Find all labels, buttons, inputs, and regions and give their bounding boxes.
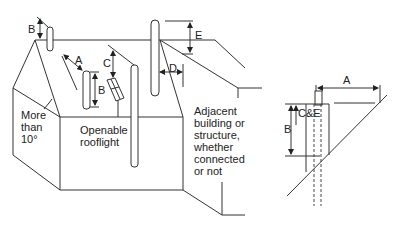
dim-label-b-top: B (28, 24, 35, 35)
flue-roof-slope (83, 71, 99, 109)
label-rooflight: Openable rooflight (80, 124, 128, 148)
flue-ridge (37, 17, 53, 51)
right-figure (285, 85, 387, 206)
pitch-angle-arc (44, 99, 52, 109)
dim-label-b-right: B (284, 124, 291, 135)
flue-tall-front (131, 65, 138, 167)
dim-label-ce-right: C&E (298, 108, 321, 119)
dim-label-a-right: A (343, 75, 350, 86)
dim-label-e: E (195, 30, 202, 41)
dim-label-d: D (169, 63, 177, 74)
dim-label-a-slope: A (75, 55, 82, 66)
rooflight (107, 45, 134, 117)
label-adjacent-building: Adjacent building or structure, whether … (194, 105, 245, 177)
dim-label-c-rooflight: C (103, 58, 111, 69)
label-roof-pitch: More than 10° (21, 109, 46, 145)
flue-adjacent (151, 20, 193, 96)
dim-label-b-flue: B (98, 85, 105, 96)
